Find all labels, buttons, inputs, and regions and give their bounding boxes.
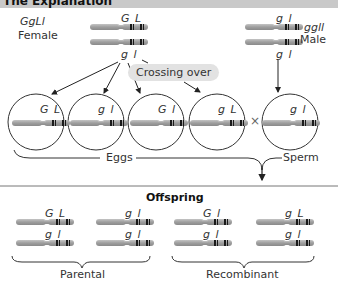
egg-4-alleles: g L: [218, 103, 238, 116]
offspring-1-top-alleles: G L: [45, 207, 66, 220]
offspring-1-bottom-alleles: g l: [45, 228, 62, 241]
eggs-bracket: [14, 150, 262, 170]
male-label: Male: [300, 33, 326, 46]
offspring-title: Offspring: [146, 191, 204, 204]
sperm-chromosome: [262, 120, 320, 126]
parental-bracket: [12, 256, 150, 268]
crossing-over-label: Crossing over: [128, 64, 219, 81]
female-chromosome-bottom: [90, 39, 148, 45]
offspring-2-bottom-alleles: g l: [125, 228, 142, 241]
egg-3-alleles: G l: [158, 103, 176, 116]
male-chromosome-bottom: [245, 39, 303, 45]
female-genotype: GgLl: [20, 15, 45, 28]
sperm-bracket: [262, 158, 282, 170]
female-top-alleles: G L: [121, 12, 142, 25]
egg-3-chromosome: [130, 120, 188, 126]
eggs-label: Eggs: [103, 151, 136, 164]
offspring-4-bottom-alleles: g l: [285, 228, 302, 241]
egg-2-chromosome: [70, 120, 128, 126]
female-bottom-alleles: g l: [121, 48, 138, 61]
egg-1-alleles: G L: [40, 103, 61, 116]
female-label: Female: [18, 29, 58, 42]
male-bottom-alleles: g l: [276, 48, 293, 61]
offspring-3-top-alleles: G l: [203, 207, 221, 220]
egg-1-chromosome: [12, 120, 70, 126]
offspring-4-top-alleles: g L: [285, 207, 305, 220]
parental-label: Parental: [60, 268, 105, 281]
egg-2-alleles: g l: [98, 103, 115, 116]
recombinant-bracket: [172, 256, 314, 268]
offspring-2-top-alleles: g l: [125, 207, 142, 220]
male-chromosome-top: [245, 24, 303, 30]
sperm-alleles: g l: [290, 103, 307, 116]
male-top-alleles: g l: [276, 12, 293, 25]
offspring-3-bottom-alleles: g l: [203, 228, 220, 241]
egg-4-chromosome: [190, 120, 248, 126]
recombinant-label: Recombinant: [206, 268, 278, 281]
cross-symbol: ×: [250, 114, 260, 128]
sperm-label: Sperm: [283, 151, 319, 164]
